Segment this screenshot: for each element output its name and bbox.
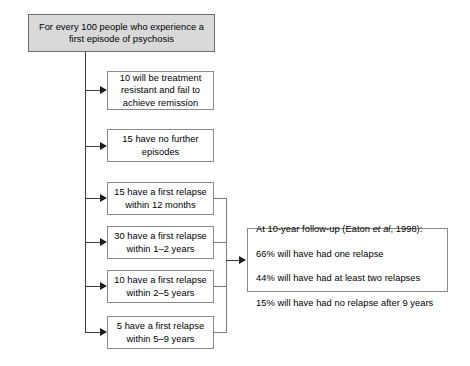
branch-connector-4 [85,242,101,243]
followup-line-4: 15% will have had no relapse after 9 yea… [256,298,433,308]
outcome-box-text-5: 10 have a first relapse within 2–5 years [110,274,211,299]
followup-connector [226,260,240,261]
arrow-icon-3 [100,194,107,202]
outcome-box-relapse-12-months: 15 have a first relapse within 12 months [107,182,214,215]
followup-line-2: 66% will have had one relapse [256,249,384,259]
header-box: For every 100 people who experience a fi… [28,14,215,52]
followup-box: At 10-year follow-up (Eaton et al, 1998)… [247,228,448,292]
flowchart-canvas: For every 100 people who experience a fi… [0,0,470,366]
followup-box-text: At 10-year follow-up (Eaton et al, 1998)… [256,210,433,309]
main-spine [85,52,86,333]
outcome-box-text-1: 10 will be treatment resistant and fail … [116,72,206,109]
arrow-icon-5 [100,282,107,290]
merge-spine [226,198,227,333]
followup-line-1-suffix: , 1998): [390,224,422,234]
branch-connector-2 [85,146,101,147]
outcome-box-text-4: 30 have a first relapse within 1–2 years [110,230,211,255]
outcome-box-relapse-5-9-years: 5 have a first relapse within 5–9 years [107,316,214,349]
arrow-icon-2 [100,142,107,150]
branch-connector-3 [85,198,101,199]
branch-connector-6 [85,332,101,333]
branch-connector-5 [85,286,101,287]
followup-line-3: 44% will have had at least two relapses [256,273,420,283]
followup-line-1-prefix: At 10-year follow-up (Eaton [256,224,373,234]
header-box-text: For every 100 people who experience a fi… [35,21,208,46]
arrow-icon-6 [100,328,107,336]
outcome-box-no-further-episodes: 15 have no further episodes [107,129,214,162]
outcome-box-relapse-2-5-years: 10 have a first relapse within 2–5 years [107,270,214,303]
followup-line-1-italic: et al [373,224,391,234]
outcome-box-text-2: 15 have no further episodes [118,133,202,158]
arrow-icon-1 [100,86,107,94]
branch-connector-1 [85,90,101,91]
outcome-box-text-6: 5 have a first relapse within 5–9 years [113,320,208,345]
arrow-icon-followup [239,256,246,264]
outcome-box-relapse-1-2-years: 30 have a first relapse within 1–2 years [107,226,214,259]
followup-line-1: At 10-year follow-up (Eaton et al, 1998)… [256,224,422,234]
outcome-box-text-3: 15 have a first relapse within 12 months [110,186,211,211]
arrow-icon-4 [100,238,107,246]
outcome-box-treatment-resistant: 10 will be treatment resistant and fail … [107,71,214,110]
